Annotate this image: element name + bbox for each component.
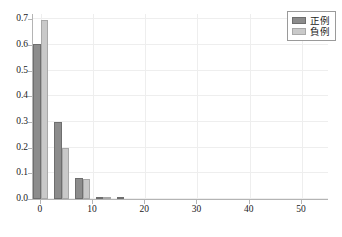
legend-label-negative: 負例 — [310, 27, 330, 37]
y-axis-tick-label: 0.3 — [2, 117, 28, 127]
bar — [117, 197, 125, 199]
bar — [83, 179, 91, 199]
legend-item-negative: 負例 — [292, 26, 330, 37]
legend-item-positive: 正例 — [292, 15, 330, 26]
bars-layer — [33, 14, 328, 199]
chart-legend: 正例 負例 — [287, 11, 336, 41]
bar — [33, 44, 41, 199]
bar — [54, 122, 62, 199]
x-axis-tick-label: 40 — [234, 205, 264, 215]
bar — [75, 178, 83, 199]
bar — [96, 197, 104, 199]
legend-label-positive: 正例 — [310, 16, 330, 26]
x-axis-tick-label: 20 — [129, 205, 159, 215]
legend-swatch-positive — [292, 17, 306, 24]
bar-chart-figure: 0.00.10.20.30.40.50.60.701020304050 正例 負… — [0, 0, 342, 237]
y-axis-tick-mark — [28, 173, 32, 174]
legend-swatch-negative — [292, 28, 306, 35]
bar — [41, 20, 49, 199]
y-axis-tick-mark — [28, 71, 32, 72]
bar — [103, 197, 111, 199]
y-axis-tick-label: 0.7 — [2, 14, 28, 24]
y-axis-tick-label: 0.2 — [2, 143, 28, 153]
y-axis-tick-label: 0.0 — [2, 194, 28, 204]
x-axis-tick-label: 10 — [77, 205, 107, 215]
x-axis-tick-label: 50 — [286, 205, 316, 215]
y-axis-tick-mark — [28, 96, 32, 97]
plot-area — [32, 14, 328, 200]
y-axis-tick-label: 0.4 — [2, 91, 28, 101]
y-axis-tick-label: 0.6 — [2, 40, 28, 50]
y-axis-tick-mark — [28, 45, 32, 46]
y-axis-tick-mark — [28, 148, 32, 149]
bar — [62, 148, 70, 199]
y-axis-tick-mark — [28, 19, 32, 20]
y-axis-tick-mark — [28, 199, 32, 200]
y-axis-tick-label: 0.5 — [2, 66, 28, 76]
x-axis-tick-label: 0 — [25, 205, 55, 215]
y-axis-tick-mark — [28, 122, 32, 123]
x-axis-tick-label: 30 — [181, 205, 211, 215]
y-axis-tick-label: 0.1 — [2, 168, 28, 178]
